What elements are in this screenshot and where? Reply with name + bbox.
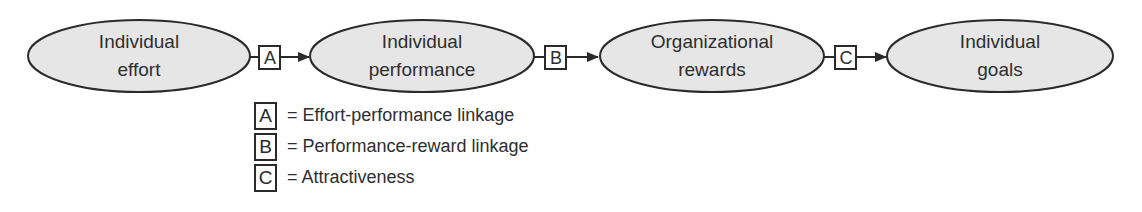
node-label-line1: Individual bbox=[382, 31, 462, 52]
node-organizational-rewards: Organizational rewards bbox=[600, 20, 824, 92]
node-individual-effort: Individual effort bbox=[28, 20, 250, 92]
legend-item-c: C = Attractiveness bbox=[254, 162, 529, 193]
legend: A = Effort-performance linkage B = Perfo… bbox=[254, 100, 529, 193]
link-a: A bbox=[250, 46, 309, 69]
legend-text: = Performance-reward linkage bbox=[287, 136, 529, 157]
legend-key-box: C bbox=[254, 164, 277, 192]
node-label-line2: rewards bbox=[678, 59, 746, 80]
node-individual-goals: Individual goals bbox=[887, 20, 1113, 92]
link-label-a: A bbox=[264, 48, 276, 68]
node-individual-performance: Individual performance bbox=[310, 20, 534, 92]
legend-key-box: A bbox=[254, 102, 277, 130]
legend-text: = Attractiveness bbox=[287, 167, 415, 188]
node-label-line2: goals bbox=[977, 59, 1022, 80]
node-label-line2: effort bbox=[118, 59, 162, 80]
node-label-line2: performance bbox=[369, 59, 476, 80]
node-label-line1: Individual bbox=[99, 31, 179, 52]
link-label-b: B bbox=[550, 48, 562, 68]
node-label-line1: Organizational bbox=[651, 31, 774, 52]
legend-key-box: B bbox=[254, 133, 277, 161]
expectancy-diagram: Individual effort A Individual performan… bbox=[0, 0, 1142, 100]
legend-item-b: B = Performance-reward linkage bbox=[254, 131, 529, 162]
legend-text: = Effort-performance linkage bbox=[287, 105, 514, 126]
link-b: B bbox=[534, 46, 598, 69]
node-label-line1: Individual bbox=[960, 31, 1040, 52]
link-c: C bbox=[824, 46, 886, 69]
link-label-c: C bbox=[840, 48, 853, 68]
legend-item-a: A = Effort-performance linkage bbox=[254, 100, 529, 131]
